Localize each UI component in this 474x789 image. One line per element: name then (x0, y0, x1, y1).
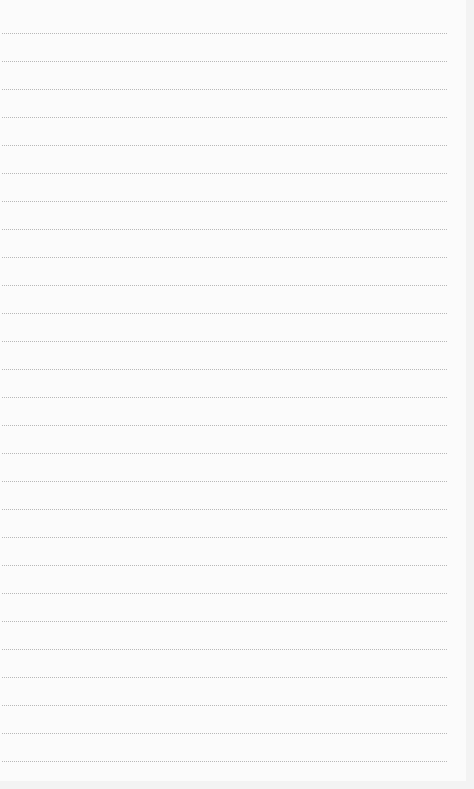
ruled-line (2, 537, 447, 538)
ruled-line (2, 453, 447, 454)
ruled-line (2, 33, 447, 34)
ruled-line (2, 593, 447, 594)
ruled-line (2, 61, 447, 62)
ruled-line (2, 761, 447, 762)
ruled-line (2, 201, 447, 202)
notepad-page[interactable] (0, 0, 466, 781)
ruled-line (2, 89, 447, 90)
ruled-line (2, 425, 447, 426)
ruled-line (2, 173, 447, 174)
ruled-line (2, 621, 447, 622)
ruled-line (2, 369, 447, 370)
ruled-line (2, 341, 447, 342)
ruled-line (2, 229, 447, 230)
ruled-line (2, 285, 447, 286)
ruled-line (2, 117, 447, 118)
ruled-line (2, 705, 447, 706)
ruled-line (2, 397, 447, 398)
ruled-line (2, 313, 447, 314)
ruled-line (2, 509, 447, 510)
ruled-line (2, 257, 447, 258)
ruled-line (2, 481, 447, 482)
ruled-line (2, 733, 447, 734)
ruled-line (2, 677, 447, 678)
ruled-line (2, 565, 447, 566)
ruled-line (2, 649, 447, 650)
ruled-line (2, 145, 447, 146)
